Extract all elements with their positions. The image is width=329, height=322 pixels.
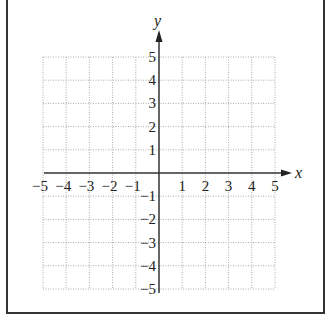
x-axis-arrow-icon	[281, 170, 292, 177]
y-tick-label: 5	[149, 49, 157, 65]
y-tick-label: −1	[140, 188, 156, 204]
y-tick-label: −5	[140, 281, 156, 297]
y-axis-label: y	[152, 12, 162, 30]
x-tick-label: 5	[271, 178, 279, 194]
x-tick-label: −4	[55, 178, 71, 194]
x-tick-label: 1	[178, 178, 186, 194]
x-tick-label: 2	[202, 178, 210, 194]
x-axis-label: x	[294, 164, 302, 181]
x-tick-label: −1	[125, 178, 141, 194]
y-axis-arrow-icon	[156, 30, 163, 42]
x-tick-label: −2	[102, 178, 118, 194]
y-tick-label: 4	[149, 72, 157, 88]
x-tick-label: −5	[32, 178, 48, 194]
y-tick-label: 2	[149, 119, 157, 135]
x-tick-label: −3	[78, 178, 94, 194]
y-tick-label: −4	[140, 258, 156, 274]
coordinate-plane: x y −5−4−3−2−112345 54321−1−2−3−4−5	[0, 0, 329, 322]
y-tick-label: 1	[149, 142, 157, 158]
x-tick-label: 3	[225, 178, 233, 194]
y-tick-label: −3	[140, 235, 156, 251]
y-tick-label: 3	[149, 95, 157, 111]
x-tick-label: 4	[248, 178, 256, 194]
y-tick-label: −2	[140, 211, 156, 227]
